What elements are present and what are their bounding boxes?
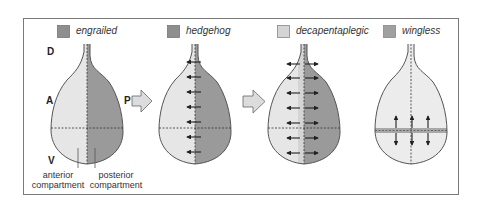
posterior-label: P [124, 95, 131, 106]
legend-label-hedgehog: hedgehog [186, 25, 231, 36]
anterior-compartment-line2: compartment [30, 180, 86, 190]
legend-label-engrailed: engrailed [76, 25, 117, 36]
legend-swatch-engrailed [58, 26, 70, 38]
wing-hedgehog [155, 42, 235, 168]
legend-label-wingless: wingless [402, 25, 440, 36]
legend-swatch-decapentaplegic [278, 26, 290, 38]
posterior-compartment-line1: posterior [88, 170, 144, 180]
legend-swatch-hedgehog [168, 26, 180, 38]
anterior-compartment-line1: anterior [30, 170, 86, 180]
block-arrow-2 [243, 90, 265, 113]
wing-decapentaplegic [264, 42, 344, 168]
block-arrow-1 [132, 90, 152, 112]
wing-engrailed [47, 42, 127, 168]
wing-wingless [371, 42, 451, 168]
ventral-label: V [48, 155, 55, 166]
posterior-compartment-label: posterior compartment [88, 170, 144, 190]
posterior-compartment-line2: compartment [88, 180, 144, 190]
dorsal-label: D [47, 46, 54, 57]
anterior-compartment-label: anterior compartment [30, 170, 86, 190]
legend-label-decapentaplegic: decapentaplegic [296, 25, 369, 36]
legend-swatch-wingless [384, 26, 396, 38]
anterior-label: A [46, 95, 53, 106]
